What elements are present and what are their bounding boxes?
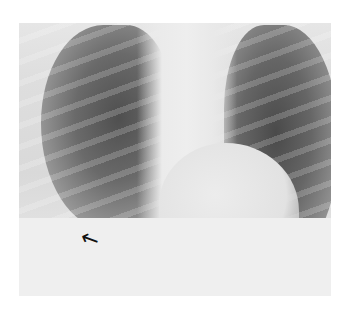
xray-film: ↖ bbox=[19, 23, 331, 296]
diaphragm-region bbox=[19, 218, 331, 296]
